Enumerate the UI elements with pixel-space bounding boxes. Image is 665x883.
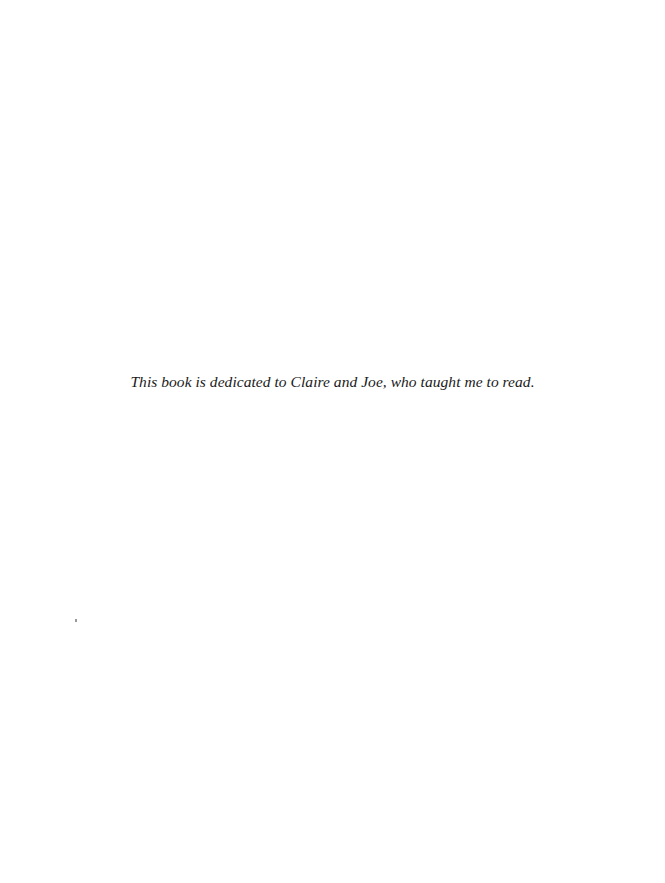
scan-artifact [75, 619, 77, 622]
book-page: This book is dedicated to Claire and Joe… [0, 0, 665, 883]
dedication-text: This book is dedicated to Claire and Joe… [0, 373, 665, 391]
